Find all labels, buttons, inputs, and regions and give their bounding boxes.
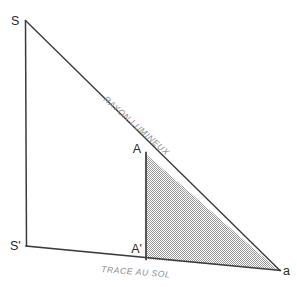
vertex-label-a-lowercase: a bbox=[283, 264, 290, 278]
vertex-label-s-prime: S' bbox=[10, 239, 21, 253]
vertex-label-s: S bbox=[11, 14, 19, 28]
vertex-label-a-prime: A' bbox=[131, 242, 142, 256]
segment-s-sprime bbox=[26, 21, 27, 246]
diagram-canvas: S S' A A' a RAYON LUMINEUX TRACE AU SOL bbox=[0, 0, 297, 287]
vertex-label-a: A bbox=[133, 142, 142, 156]
annotation-trace-au-sol: TRACE AU SOL bbox=[101, 264, 171, 280]
geometry-figure: S S' A A' a RAYON LUMINEUX TRACE AU SOL bbox=[0, 0, 297, 287]
shaded-shadow-triangle bbox=[146, 154, 278, 270]
